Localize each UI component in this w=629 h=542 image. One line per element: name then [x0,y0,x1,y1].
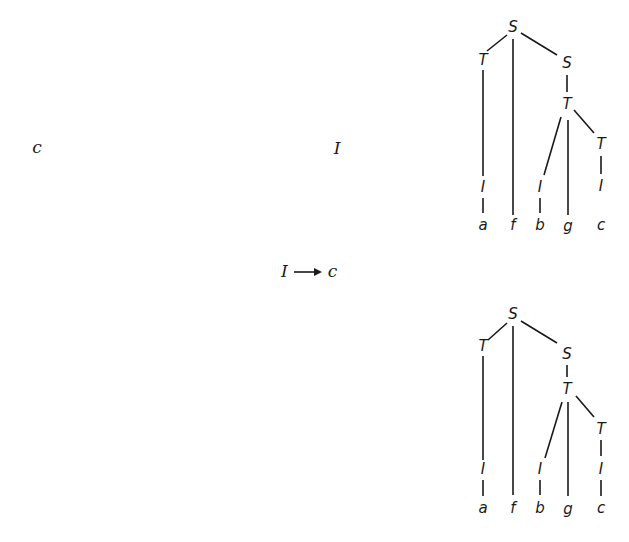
edge [521,321,557,343]
edge [487,35,507,51]
edge [488,323,507,340]
edge [545,402,562,458]
edge [574,110,594,133]
node-I-b: I [538,178,543,196]
leaf-a: a [478,216,487,234]
leaf-b: b [535,216,545,234]
leaf-g: g [563,217,573,235]
leaf-f: f [510,499,518,517]
node-S-root: S [508,305,518,323]
node-T-mid: T [562,380,573,398]
node-T-right: T [596,420,607,438]
production-rule: I c [281,263,337,280]
leaf-f: f [510,216,518,234]
leaf-c: c [597,216,606,234]
rule-lhs: I [281,263,288,280]
node-I-a: I [481,460,486,478]
node-I-a: I [481,178,486,196]
rule-rhs: c [328,263,338,280]
leaf-b: b [535,499,545,517]
node-I-c: I [599,177,604,195]
node-T-right: T [596,135,607,153]
node-T-left: T [478,51,489,69]
node-S-right: S [562,54,572,72]
leaf-a: a [478,499,487,517]
edge [544,117,561,175]
leaf-g: g [563,500,573,518]
parse-tree-after: S T S T T I I I a f b g c [0,290,629,542]
node-I-b: I [538,460,543,478]
edge [521,33,557,55]
node-I-c: I [599,460,604,478]
leaf-c: c [597,499,606,517]
edge [576,396,594,417]
right-arrow-icon [294,267,322,277]
node-S-right: S [562,345,572,363]
parse-tree-before: S T S T T I I I a f b g c [0,0,629,250]
node-T-mid: T [562,95,573,113]
node-S-root: S [508,18,518,36]
